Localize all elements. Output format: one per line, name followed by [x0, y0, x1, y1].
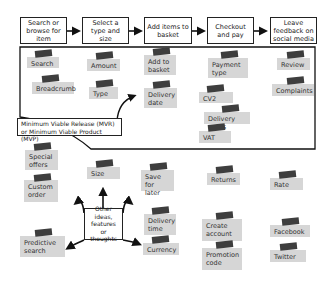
note-type: Type [89, 87, 118, 99]
journey-step-search: Search or browse for item [20, 17, 67, 44]
note-review: Review [277, 58, 310, 70]
note-payment-type: Payment type [208, 58, 248, 78]
journey-step-select: Select a type and size [82, 17, 129, 44]
note-delivery-time: Delivery time [144, 214, 176, 235]
note-add-to-basket: Add to basket [144, 55, 176, 75]
note-complaints: Complaints [272, 84, 314, 96]
note-rate: Rate [270, 178, 303, 190]
journey-step-checkout: Checkout and pay [207, 17, 254, 44]
mvp-label: Minimum Viable Release (MVR) or Minimum … [17, 118, 122, 136]
note-cv2: CV2 [199, 92, 233, 103]
note-amount: Amount [87, 59, 120, 71]
other-ideas-box: Other ideas, features or thoughts [84, 208, 123, 240]
note-size: Size [87, 167, 120, 179]
journey-step-add: Add items to basket [144, 17, 192, 44]
journey-step-feedback: Leave feedback on social media [270, 17, 317, 44]
note-special-offers: Special offers [25, 150, 58, 170]
note-custom-order: Custom order [24, 180, 58, 202]
note-facebook: Facebook [270, 225, 310, 237]
note-delivery-notes: Delivery notes [204, 112, 250, 124]
note-twitter: Twitter [270, 250, 306, 262]
note-currency: Currency [143, 243, 179, 255]
note-delivery-date: Delivery date [144, 88, 177, 108]
note-predictive-search: Predictive search [20, 236, 65, 257]
note-vat: VAT [199, 131, 231, 143]
note-search: Search [27, 57, 59, 68]
note-breadcrumb: Breadcrumb [32, 82, 74, 94]
story-map-diagram: Search or browse for item Select a type … [0, 0, 334, 284]
note-returns: Returns [207, 173, 240, 185]
note-promotion-code: Promotion code [202, 248, 242, 270]
note-save-for-later: Save for later [141, 170, 174, 191]
note-create-account: Create account [202, 219, 242, 241]
